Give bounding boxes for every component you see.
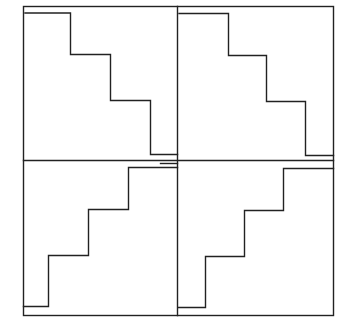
staircase-line-top-right xyxy=(179,14,334,156)
staircase-line-top-left xyxy=(25,13,178,155)
panel-top-left xyxy=(25,13,178,155)
staircase-line-bottom-right xyxy=(178,169,334,308)
panel-bottom-left xyxy=(24,168,178,307)
staircase-line-bottom-left xyxy=(24,168,178,307)
panel-bottom-right xyxy=(178,169,334,308)
staircase-grid-diagram xyxy=(0,0,339,318)
panel-top-right xyxy=(179,14,334,156)
